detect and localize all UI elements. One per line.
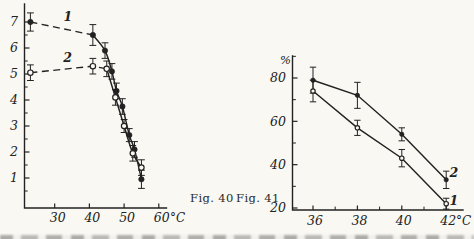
open-circle-marker: [355, 126, 359, 130]
filled-circle-marker: [400, 132, 404, 136]
open-circle-marker: [400, 156, 404, 160]
fig40-curve-label-2: 2: [62, 50, 72, 65]
open-circle-marker: [113, 95, 118, 100]
open-circle-marker: [90, 63, 95, 68]
fig40-series-1-dashed-line: [30, 22, 93, 35]
fig40-x-unit-label: °C: [170, 211, 185, 225]
fig41-x-tick-label: 42: [439, 213, 456, 228]
scanned-page: 123456730405060°C122040608036384042°C%21…: [0, 0, 474, 239]
fig40-y-tick-label: 4: [9, 92, 18, 107]
fig41-x-tick-label: 40: [395, 213, 412, 228]
filled-circle-marker: [139, 177, 144, 182]
cut-off-text-row: [0, 235, 474, 239]
fig40-y-tick-label: 5: [10, 66, 18, 81]
fig40-series-2: [27, 58, 145, 175]
fig40-y-tick-label: 6: [10, 40, 18, 55]
fig40-series-1: [27, 13, 145, 189]
fig41-y-tick-label: 80: [270, 70, 286, 85]
open-circle-marker: [444, 202, 448, 206]
open-circle-marker: [28, 70, 33, 75]
fig40-y-tick-label: 2: [9, 144, 18, 159]
filled-circle-marker: [90, 32, 95, 37]
fig40-curve-label-1: 1: [64, 9, 73, 24]
fig40-y-tick-label: 3: [10, 118, 18, 133]
filled-circle-marker: [28, 19, 33, 24]
open-circle-marker: [139, 165, 144, 170]
filled-circle-marker: [355, 93, 359, 97]
open-circle-marker: [104, 66, 109, 71]
fig41-caption: Fig. 41: [236, 191, 280, 205]
fig40-x-tick-label: 60: [154, 210, 170, 225]
fig41-curve-label-1: 1: [450, 193, 459, 208]
filled-circle-marker: [109, 69, 114, 74]
filled-circle-marker: [102, 48, 107, 53]
fig40-series-2-line: [107, 69, 142, 168]
filled-circle-marker: [444, 178, 448, 182]
fig40-y-tick-label: 7: [10, 14, 18, 29]
fig41-axes: [293, 56, 464, 210]
fig40-x-tick-label: 40: [83, 210, 100, 225]
fig40-x-tick-label: 30: [50, 210, 66, 225]
fig41-series-1-line: [313, 91, 446, 204]
fig41-y-tick-label: 40: [269, 157, 286, 172]
fig40-caption: Fig. 40: [190, 191, 234, 205]
open-circle-marker: [121, 123, 126, 128]
filled-circle-marker: [120, 104, 125, 109]
fig41-curve-label-2: 2: [449, 165, 459, 180]
fig40-chart: 123456730405060°C12: [9, 4, 185, 225]
fig40-y-tick-label: 1: [10, 170, 18, 185]
fig41-series-2-line: [313, 80, 446, 180]
open-circle-marker: [130, 151, 135, 156]
open-circle-marker: [311, 89, 315, 93]
fig41-chart: 2040608036384042°C%21: [269, 53, 471, 228]
fig41-y-tick-label: 60: [270, 114, 286, 129]
fig41-x-tick-label: 36: [307, 213, 323, 228]
fig41-x-unit-label: °C: [456, 214, 471, 228]
fig41-series-2: [310, 67, 450, 188]
fig41-y-unit-label: %: [280, 53, 291, 67]
fig40-x-tick-label: 50: [119, 210, 135, 225]
fig41-series-1: [310, 80, 450, 209]
fig41-x-tick-label: 38: [351, 213, 367, 228]
